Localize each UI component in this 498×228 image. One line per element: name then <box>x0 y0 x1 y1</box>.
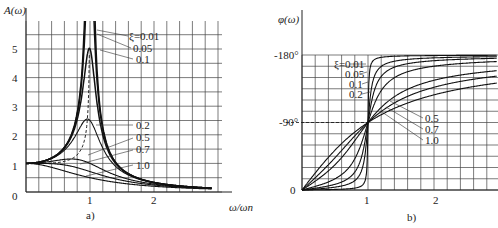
amplitude-ytick-4: 4 <box>12 72 18 84</box>
legend-zeta-02: 0.2 <box>136 119 150 131</box>
amplitude-y-label: A(ω) <box>3 4 26 17</box>
amplitude-xtick-1: 1 <box>87 194 93 206</box>
phase-ytick-180: -180° <box>274 49 299 61</box>
amplitude-x-label: ω/ωn <box>229 201 254 213</box>
amplitude-xtick-2: 2 <box>151 194 157 206</box>
phase-ytick-90: -90° <box>279 116 298 128</box>
phase-ytick-0: 0 <box>290 184 296 196</box>
legend-zeta-10: 1.0 <box>136 159 150 171</box>
phase-xtick-2: 2 <box>433 194 439 206</box>
phase-xtick-1: 1 <box>364 194 370 206</box>
amplitude-caption: a) <box>86 209 95 222</box>
amplitude-ytick-2: 2 <box>12 130 18 142</box>
legend-zeta-05: 0.5 <box>136 131 150 143</box>
phase-caption: b) <box>407 211 417 224</box>
phase-y-label: φ(ω) <box>278 13 300 26</box>
amplitude-ytick-1: 1 <box>12 160 18 172</box>
bode-charts: A(ω) 5 4 3 2 1 0 1 2 ω/ωn a) ξ=0.01 0.05… <box>0 0 498 228</box>
phase-legend-zeta-10: 1.0 <box>425 134 439 146</box>
legend-zeta-01: 0.1 <box>136 53 150 65</box>
phase-legend-zeta-02: 0.2 <box>349 88 363 100</box>
amplitude-ytick-5: 5 <box>12 43 18 55</box>
amplitude-ytick-3: 3 <box>12 101 18 113</box>
amplitude-ytick-0: 0 <box>12 190 18 202</box>
legend-zeta-07: 0.7 <box>136 143 150 155</box>
